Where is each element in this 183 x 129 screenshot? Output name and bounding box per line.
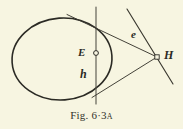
point-h-marker [155, 55, 159, 59]
label-point-e: E [78, 47, 85, 58]
caption-main-text: Fig. 6·3 [70, 109, 106, 121]
label-line-h: h [80, 68, 87, 80]
lower-tangent-line [92, 57, 157, 98]
label-line-e: e [131, 29, 136, 40]
point-e-marker [94, 51, 99, 56]
figure-container: E h e H Fig. 6·3A [0, 0, 183, 129]
label-point-h: H [164, 49, 173, 61]
ellipse-shape [9, 15, 114, 104]
caption-suffix-text: A [107, 112, 113, 121]
figure-caption: Fig. 6·3A [0, 109, 183, 121]
